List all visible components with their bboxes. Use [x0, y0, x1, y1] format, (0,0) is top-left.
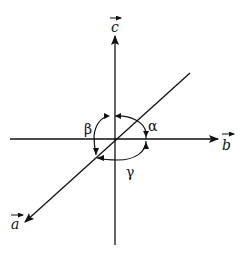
a-axis — [25, 73, 190, 222]
beta-arrow-bottom-icon — [93, 148, 99, 155]
gamma-label: γ — [126, 164, 134, 180]
beta-label: β — [84, 121, 92, 137]
b-label: b — [222, 134, 234, 153]
svg-text:b: b — [222, 137, 231, 153]
c-label: c — [110, 18, 121, 35]
unit-cell-axes-diagram: c b a β α γ — [0, 0, 242, 254]
alpha-arrow-c-icon — [115, 113, 121, 119]
a-label: a — [11, 215, 23, 232]
svg-text:a: a — [11, 216, 19, 232]
beta-arrow-top-icon — [104, 113, 110, 119]
svg-text:c: c — [111, 19, 119, 35]
gamma-arrow-b-icon — [143, 142, 149, 149]
alpha-label: α — [148, 118, 158, 134]
